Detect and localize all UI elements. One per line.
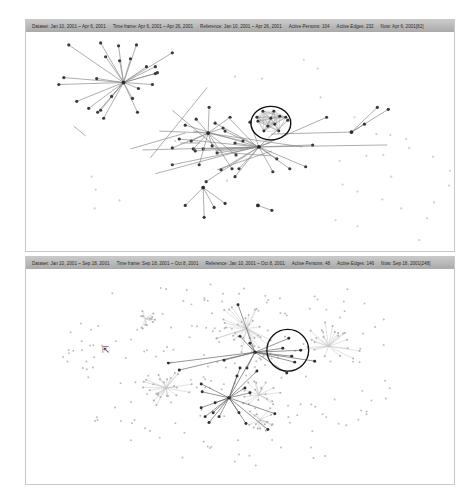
faint-node [155,404,157,406]
node [256,120,259,123]
node [313,360,316,363]
node [110,95,113,98]
node [104,55,107,58]
faint-node [141,327,143,329]
faint-node [270,414,272,416]
faint-node [94,207,96,209]
status-bar-bottom: Dataset: Jan 10, 2001 ~ Sep 18, 2001 Tim… [26,257,454,269]
faint-node [231,306,233,308]
faint-node [183,432,185,434]
node [195,118,198,121]
network-canvas-top[interactable] [26,32,454,251]
faint-node [196,325,198,327]
faint-node [315,337,317,339]
faint-node [219,330,221,332]
node [363,123,366,126]
faint-node [448,185,450,187]
faint-node [205,327,207,329]
faint-node [131,422,133,424]
faint-node [221,388,223,390]
faint-edge [160,388,166,397]
network-canvas-bottom[interactable]: ⇱ [26,269,454,484]
faint-node [346,339,348,341]
faint-node [234,460,236,462]
faint-node [157,394,159,396]
faint-node [273,387,275,389]
faint-node [426,217,428,219]
faint-node [271,357,273,359]
faint-node [199,415,201,417]
node [262,130,265,133]
node [277,130,280,133]
faint-node [366,413,368,415]
faint-node [345,424,347,426]
edge [229,352,255,398]
faint-node [264,423,266,425]
faint-node [162,313,164,315]
faint-edge [311,331,329,346]
faint-node [271,400,273,402]
node [273,123,276,126]
network-graph-top[interactable] [26,32,454,251]
node [136,111,139,114]
faint-node [364,303,366,305]
faint-node [405,138,407,140]
faint-node [324,355,326,357]
faint-node [163,350,165,352]
faint-node [360,409,362,411]
node [272,110,275,113]
node [248,342,251,345]
faint-node [143,381,145,383]
faint-node [311,430,313,432]
faint-node [176,387,178,389]
node [304,165,307,168]
faint-node [234,362,236,364]
faint-node [267,299,269,301]
faint-node [325,416,327,418]
faint-node [259,427,261,429]
faint-node [322,413,324,415]
node [203,216,206,219]
node [167,362,170,365]
faint-node [359,348,361,350]
node [293,361,296,364]
faint-node [118,199,120,201]
faint-node [223,383,225,385]
faint-node [97,419,99,421]
edge [205,398,229,417]
node [387,108,390,111]
node [234,153,237,156]
node [178,369,181,372]
hub-node [253,350,257,354]
node [239,367,242,370]
dataset-range: Dataset: Jan 10, 2001 ~ Apr 6, 2001 [32,24,106,29]
faint-node [381,198,383,200]
faint-node [314,341,316,343]
faint-node [257,310,259,312]
faint-node [85,361,87,363]
faint-edge [259,393,280,395]
node [131,97,134,100]
node [151,83,154,86]
faint-node [256,413,258,415]
faint-node [177,373,179,375]
network-graph-bottom[interactable] [26,269,454,484]
faint-node [254,407,256,409]
node [184,124,187,127]
faint-node [338,160,340,162]
node [171,163,174,166]
faint-node [366,410,368,412]
node [205,180,208,183]
node [135,43,138,46]
faint-node [254,309,256,311]
faint-node [190,303,192,305]
faint-node [248,455,250,457]
edge [64,78,124,83]
node [266,428,269,431]
faint-node [141,310,143,312]
faint-node [248,314,250,316]
faint-node [188,391,190,393]
edge [229,398,246,424]
edge [271,132,352,134]
faint-node [172,349,174,351]
